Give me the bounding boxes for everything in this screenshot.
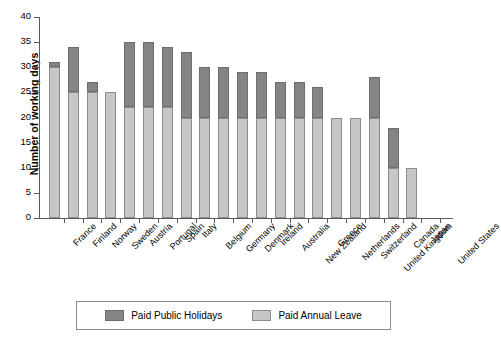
bar-segment-paid-public-holidays <box>275 82 286 117</box>
bar-segment-paid-public-holidays <box>218 67 229 117</box>
bar-column <box>350 17 361 218</box>
bar-segment-paid-public-holidays <box>369 77 380 117</box>
bar-segment-paid-public-holidays <box>256 72 267 117</box>
bar-column <box>143 17 154 218</box>
y-tick: 20 <box>39 118 44 119</box>
bar-segment-paid-annual-leave <box>275 118 286 219</box>
plot-area: 0510152025303540 <box>39 17 453 219</box>
bar-segment-paid-annual-leave <box>388 168 399 218</box>
bar-column <box>87 17 98 218</box>
y-tick: 35 <box>39 42 44 43</box>
y-tick-mark <box>34 17 39 18</box>
bar-column <box>406 17 417 218</box>
bar-column <box>124 17 135 218</box>
bar-segment-paid-annual-leave <box>369 118 380 219</box>
bar-segment-paid-annual-leave <box>199 118 210 219</box>
y-tick: 40 <box>39 17 44 18</box>
chart-legend: Paid Public Holidays Paid Annual Leave <box>76 301 391 330</box>
bar-segment-paid-annual-leave <box>218 118 229 219</box>
bar-column <box>237 17 248 218</box>
legend-item-paid-public-holidays: Paid Public Holidays <box>105 310 222 321</box>
y-tick-mark <box>34 42 39 43</box>
y-tick: 30 <box>39 67 44 68</box>
bar-column <box>388 17 399 218</box>
bar-column <box>425 17 436 218</box>
bar-segment-paid-annual-leave <box>256 118 267 219</box>
bar-segment-paid-public-holidays <box>294 82 305 117</box>
bar-segment-paid-public-holidays <box>49 62 60 67</box>
y-tick-label: 15 <box>20 136 31 147</box>
y-tick-mark <box>34 92 39 93</box>
bar-segment-paid-annual-leave <box>49 67 60 218</box>
bar-segment-paid-annual-leave <box>406 168 417 218</box>
y-tick-label: 10 <box>20 161 31 172</box>
y-tick-mark <box>34 218 39 219</box>
bar-column <box>369 17 380 218</box>
y-tick-label: 20 <box>20 111 31 122</box>
bar-segment-paid-public-holidays <box>87 82 98 92</box>
y-tick-label: 5 <box>26 186 31 197</box>
bar-segment-paid-public-holidays <box>199 67 210 117</box>
bar-column <box>162 17 173 218</box>
y-tick-label: 25 <box>20 85 31 96</box>
bar-segment-paid-public-holidays <box>312 87 323 117</box>
y-tick-mark <box>34 193 39 194</box>
bar-column <box>331 17 342 218</box>
legend-label: Paid Public Holidays <box>131 310 222 321</box>
y-tick: 15 <box>39 143 44 144</box>
bar-segment-paid-annual-leave <box>68 92 79 218</box>
bar-segment-paid-public-holidays <box>143 42 154 107</box>
y-tick-label: 35 <box>20 35 31 46</box>
y-tick-mark <box>34 118 39 119</box>
legend-swatch-icon <box>252 310 271 321</box>
bar-segment-paid-annual-leave <box>181 118 192 219</box>
bar-segment-paid-annual-leave <box>162 107 173 218</box>
bar-segment-paid-public-holidays <box>68 47 79 92</box>
y-tick: 5 <box>39 193 44 194</box>
bar-segment-paid-annual-leave <box>87 92 98 218</box>
y-tick-label: 40 <box>20 10 31 21</box>
y-tick-label: 0 <box>26 211 31 222</box>
bar-segment-paid-public-holidays <box>181 52 192 117</box>
bar-segment-paid-public-holidays <box>162 47 173 107</box>
y-tick: 10 <box>39 168 44 169</box>
bar-column <box>218 17 229 218</box>
bar-column <box>68 17 79 218</box>
x-axis-label: United States <box>456 221 501 266</box>
legend-item-paid-annual-leave: Paid Annual Leave <box>252 310 361 321</box>
bar-segment-paid-annual-leave <box>124 107 135 218</box>
bar-column <box>49 17 60 218</box>
bar-segment-paid-public-holidays <box>237 72 248 117</box>
bar-segment-paid-annual-leave <box>105 92 116 218</box>
x-axis-labels: FranceFinlandNorwaySwedenAustriaPortugal… <box>39 221 463 291</box>
bar-segment-paid-annual-leave <box>294 118 305 219</box>
bar-segment-paid-annual-leave <box>350 118 361 219</box>
bar-column <box>256 17 267 218</box>
bar-column <box>199 17 210 218</box>
y-tick-mark <box>34 143 39 144</box>
bars-container <box>39 17 453 218</box>
legend-swatch-icon <box>105 310 124 321</box>
bar-column <box>312 17 323 218</box>
y-tick-mark <box>34 67 39 68</box>
y-tick: 25 <box>39 92 44 93</box>
bar-segment-paid-annual-leave <box>143 107 154 218</box>
x-axis-label: Australia <box>299 221 331 253</box>
y-tick: 0 <box>39 218 44 219</box>
bar-column <box>105 17 116 218</box>
bar-segment-paid-annual-leave <box>237 118 248 219</box>
y-tick-label: 30 <box>20 60 31 71</box>
bar-column <box>181 17 192 218</box>
legend-label: Paid Annual Leave <box>278 310 361 321</box>
bar-column <box>275 17 286 218</box>
bar-segment-paid-public-holidays <box>388 128 399 168</box>
y-tick-mark <box>34 168 39 169</box>
bar-segment-paid-public-holidays <box>124 42 135 107</box>
bar-segment-paid-annual-leave <box>331 118 342 219</box>
bar-column <box>294 17 305 218</box>
bar-segment-paid-annual-leave <box>312 118 323 219</box>
